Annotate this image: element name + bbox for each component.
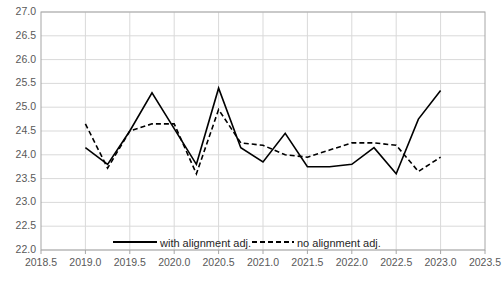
y-tick-24-5: 24.5 (2, 124, 36, 136)
plot-area (0, 0, 504, 292)
line-chart: 22.022.523.023.524.024.525.025.526.026.5… (0, 0, 504, 292)
y-tick-25-5: 25.5 (2, 76, 36, 88)
x-tick-2023-5: 2023.5 (459, 256, 504, 268)
legend-label-with-alignment-adj: with alignment adj. (160, 237, 251, 249)
y-tick-24-0: 24.0 (2, 148, 36, 160)
gridlines (41, 12, 485, 250)
legend-label-no-alignment-adj: no alignment adj. (297, 237, 381, 249)
y-tick-27-0: 27.0 (2, 5, 36, 17)
y-tick-26-0: 26.0 (2, 53, 36, 65)
y-tick-22-0: 22.0 (2, 243, 36, 255)
y-tick-25-0: 25.0 (2, 100, 36, 112)
y-tick-23-0: 23.0 (2, 195, 36, 207)
y-tick-26-5: 26.5 (2, 29, 36, 41)
y-tick-23-5: 23.5 (2, 172, 36, 184)
y-tick-22-5: 22.5 (2, 219, 36, 231)
